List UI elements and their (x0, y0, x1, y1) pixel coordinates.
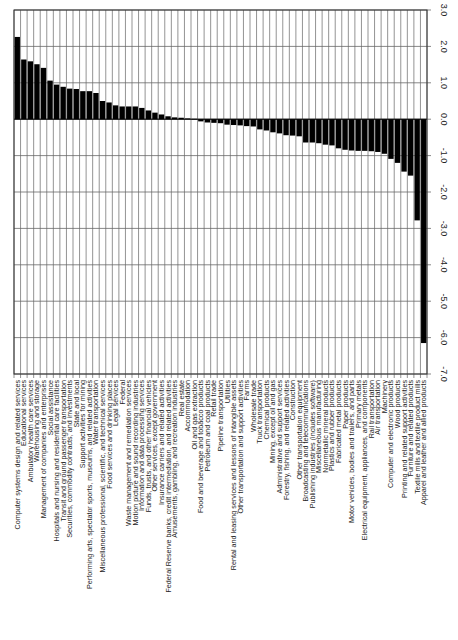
bar (34, 64, 39, 119)
bar (296, 119, 301, 136)
bar (41, 68, 46, 119)
bar (264, 119, 269, 130)
bar (237, 119, 242, 125)
bar (106, 102, 111, 119)
value-tick-label: -2.0 (439, 184, 449, 200)
bar (139, 108, 144, 119)
bar (375, 119, 380, 152)
bar (342, 119, 347, 150)
value-axis-ticks: 3.02.01.00.0-1.0-2.0-3.0-4.0-5.0-6.0-7.0 (439, 4, 449, 382)
bar (349, 119, 354, 150)
bar (185, 118, 190, 119)
value-tick-label: 1.0 (439, 77, 449, 90)
bar (15, 37, 20, 119)
value-tick-label: 3.0 (439, 4, 449, 17)
bar (165, 116, 170, 119)
bar (408, 119, 413, 175)
bar (218, 119, 223, 123)
category-labels: Computer systems design and related serv… (13, 380, 428, 593)
bar (133, 106, 138, 119)
value-tick-label: -3.0 (439, 221, 449, 237)
bar (60, 87, 65, 119)
bar (67, 89, 72, 120)
bar (146, 110, 151, 119)
bar (303, 119, 308, 142)
value-tick-label: -6.0 (439, 330, 449, 346)
bar (152, 113, 157, 120)
bar (395, 119, 400, 163)
bar (251, 119, 256, 126)
bar (74, 89, 79, 119)
bar (198, 119, 203, 121)
gridlines (14, 10, 431, 378)
bar (277, 119, 282, 133)
bar (211, 119, 216, 123)
bar (87, 91, 92, 119)
bar (421, 119, 426, 343)
bar (401, 119, 406, 171)
bar (329, 119, 334, 145)
category-label: Apparel and leather and allied products (419, 380, 428, 505)
bar (100, 101, 105, 119)
value-tick-label: 0.0 (439, 113, 449, 126)
value-tick-label: -1.0 (439, 148, 449, 164)
bar (54, 85, 59, 120)
bar (28, 61, 33, 119)
bar (316, 119, 321, 143)
bar (257, 119, 262, 129)
bar (119, 106, 124, 119)
bar (178, 118, 183, 119)
bar (388, 119, 393, 159)
bar (126, 106, 131, 119)
value-tick-label: -7.0 (439, 366, 449, 382)
bar (192, 119, 197, 120)
bar (113, 105, 118, 119)
bar (283, 119, 288, 135)
bar (21, 60, 26, 120)
bar (369, 119, 374, 151)
value-tick-label: -4.0 (439, 257, 449, 273)
bar (231, 119, 236, 125)
bar (362, 119, 367, 151)
bar-chart: 3.02.01.00.0-1.0-2.0-3.0-4.0-5.0-6.0-7.0… (0, 0, 458, 640)
bar (93, 93, 98, 119)
bar (80, 91, 85, 119)
bar (159, 114, 164, 119)
bar (414, 119, 419, 220)
bar (355, 119, 360, 151)
value-tick-label: -5.0 (439, 293, 449, 309)
bar (270, 119, 275, 132)
bar (382, 119, 387, 154)
bar (310, 119, 315, 142)
bar (224, 119, 229, 124)
bar (244, 119, 249, 126)
bar (205, 119, 210, 122)
bar (290, 119, 295, 135)
value-tick-label: 2.0 (439, 40, 449, 53)
bar (323, 119, 328, 144)
bar (47, 81, 52, 120)
bar (172, 117, 177, 119)
bar (336, 119, 341, 148)
